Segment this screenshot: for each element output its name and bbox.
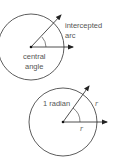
central-angle-diagram: intercepted arc central angle bbox=[0, 14, 102, 80]
radius-r-label: r bbox=[80, 124, 84, 133]
angle-arc-icon bbox=[73, 108, 80, 122]
center-point bbox=[62, 121, 65, 124]
radian-diagram: 1 radian r r bbox=[29, 86, 107, 156]
arc-length-r-label: r bbox=[95, 99, 99, 108]
angle-arc-icon bbox=[42, 37, 46, 47]
arc-label: arc bbox=[65, 31, 76, 40]
radian-label: 1 radian bbox=[43, 99, 70, 108]
center-point bbox=[30, 46, 33, 49]
intercepted-label: intercepted bbox=[65, 21, 102, 30]
radius-arrow-diagonal bbox=[31, 15, 61, 47]
central-label: central bbox=[23, 52, 46, 61]
diagram-canvas: intercepted arc central angle 1 radian r… bbox=[0, 0, 115, 163]
angle-label: angle bbox=[25, 62, 43, 71]
